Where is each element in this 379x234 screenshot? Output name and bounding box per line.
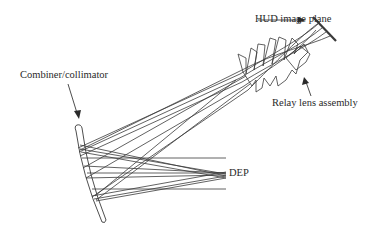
- optical-diagram: HUD image plane Relay lens assembly Comb…: [0, 0, 379, 234]
- combiner-label: Combiner/collimator: [20, 70, 108, 81]
- relay-lens-label: Relay lens assembly: [272, 98, 358, 109]
- arrow-down-icon: [74, 110, 81, 119]
- arrow-up-icon: [302, 77, 309, 85]
- dep-label: DEP: [229, 168, 249, 179]
- ray-trace-drawing: [0, 0, 379, 234]
- image-plane-label: HUD image plane: [255, 14, 331, 25]
